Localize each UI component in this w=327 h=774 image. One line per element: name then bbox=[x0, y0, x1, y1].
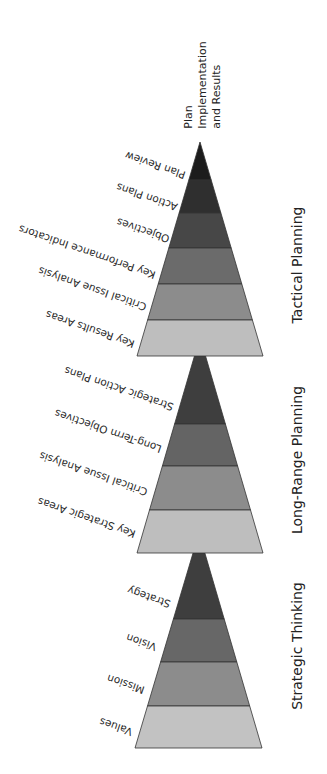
pyramid-band bbox=[150, 466, 251, 510]
planning-pyramids-diagram bbox=[0, 0, 327, 774]
pyramid-band bbox=[169, 213, 231, 248]
pyramid-band bbox=[137, 320, 263, 356]
pyramid-band bbox=[179, 180, 221, 213]
apex-label-line: Plan bbox=[182, 41, 196, 128]
section-title-strategic-thinking: Strategic Thinking bbox=[289, 582, 305, 710]
pyramid-tactical-planning bbox=[137, 142, 263, 356]
pyramid-band bbox=[158, 248, 242, 284]
apex-label-plan-implementation-results: Plan Implementation and Results bbox=[182, 41, 224, 128]
section-title-tactical-planning: Tactical Planning bbox=[289, 207, 305, 324]
pyramid-band bbox=[148, 662, 250, 706]
apex-label-line: and Results bbox=[210, 41, 224, 128]
pyramid-band bbox=[137, 510, 263, 553]
pyramid-band bbox=[162, 424, 237, 466]
pyramid-band bbox=[161, 619, 237, 662]
pyramid-band bbox=[148, 284, 253, 320]
pyramid-band bbox=[135, 706, 262, 748]
pyramid-band bbox=[189, 142, 211, 180]
apex-label-line: Implementation bbox=[196, 41, 210, 128]
section-title-long-range-planning: Long-Range Planning bbox=[289, 386, 305, 534]
